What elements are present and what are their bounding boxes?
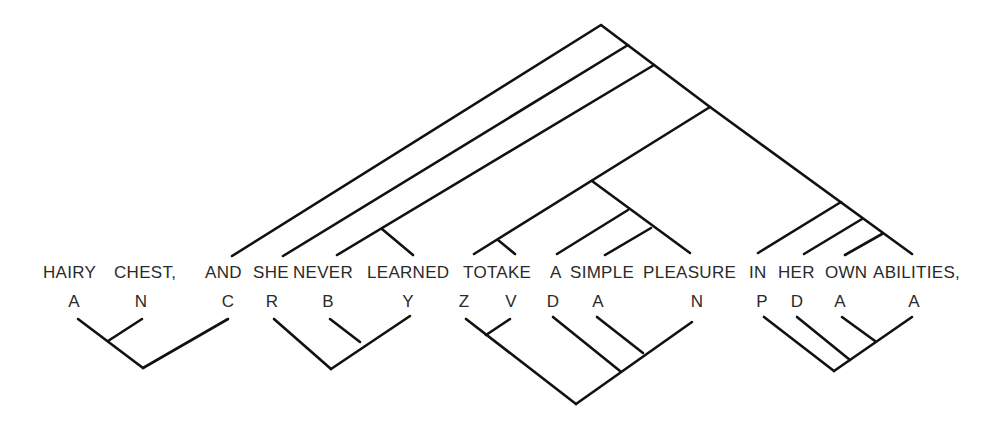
lower-tree-edge	[834, 317, 912, 371]
word-tag: Z	[459, 292, 469, 311]
lower-tree-edge	[486, 319, 510, 335]
sentence-word: SIMPLE	[570, 263, 634, 282]
lower-tree-edge	[143, 319, 228, 368]
lower-tree-edge	[274, 319, 331, 369]
sentence-word: LEARNED	[367, 263, 449, 282]
sentence-word: TOTAKE	[463, 263, 531, 282]
lower-tree-edge	[331, 316, 410, 369]
sentence-words: HAIRYCHEST,ANDSHENEVERLEARNEDTOTAKEASIMP…	[43, 263, 960, 282]
sentence-word: AND	[205, 263, 242, 282]
lower-tree-edge	[597, 317, 643, 353]
dependency-diagram: HAIRYCHEST,ANDSHENEVERLEARNEDTOTAKEASIMP…	[0, 0, 1003, 422]
lower-tree-edge	[842, 317, 875, 341]
word-tag: B	[322, 292, 333, 311]
word-class-tags: ANCRBYZVDANPDAA	[68, 292, 920, 311]
lower-tag-tree	[78, 316, 912, 404]
lower-tree-edge	[553, 317, 620, 371]
word-tag: A	[592, 292, 604, 311]
lower-tree-edge	[108, 319, 142, 341]
sentence-word: HAIRY	[43, 263, 96, 282]
upper-tree-edge	[498, 240, 515, 254]
upper-tree-edge	[845, 234, 882, 255]
word-tag: D	[547, 292, 559, 311]
word-tag: A	[68, 292, 80, 311]
sentence-word: CHEST,	[114, 263, 176, 282]
word-tag: D	[791, 292, 803, 311]
upper-tree-edge	[601, 25, 710, 107]
sentence-word: ABILITIES,	[873, 263, 960, 282]
sentence-word: PLEASURE	[643, 263, 736, 282]
word-tag: V	[505, 292, 517, 311]
word-tag: C	[222, 292, 234, 311]
tree-canvas: HAIRYCHEST,ANDSHENEVERLEARNEDTOTAKEASIMP…	[0, 0, 1003, 422]
word-tag: Y	[402, 292, 413, 311]
word-tag: N	[691, 292, 703, 311]
sentence-word: NEVER	[293, 263, 353, 282]
lower-tree-edge	[466, 319, 576, 404]
upper-tree-edge	[710, 107, 912, 254]
upper-tree-edge	[804, 219, 862, 254]
word-tag: A	[834, 292, 846, 311]
word-tag: N	[135, 292, 147, 311]
upper-tree-edge	[605, 228, 651, 255]
lower-tree-edge	[78, 319, 143, 368]
upper-tree-edge	[232, 25, 601, 256]
upper-tree-edge	[758, 202, 841, 253]
lower-tree-edge	[764, 317, 834, 371]
upper-tree-edge	[283, 45, 628, 256]
sentence-word: SHE	[253, 263, 289, 282]
word-tag: A	[908, 292, 920, 311]
word-tag: R	[266, 292, 278, 311]
word-tag: P	[756, 292, 767, 311]
sentence-word: HER	[778, 263, 815, 282]
lower-tree-edge	[576, 322, 692, 404]
sentence-word: OWN	[825, 263, 867, 282]
sentence-word: A	[550, 263, 562, 282]
lower-tree-edge	[330, 319, 360, 342]
upper-tree-edge	[382, 229, 413, 255]
upper-dependency-tree	[232, 25, 912, 256]
lower-tree-edge	[797, 317, 850, 360]
upper-tree-edge	[592, 181, 690, 253]
sentence-word: IN	[749, 263, 767, 282]
